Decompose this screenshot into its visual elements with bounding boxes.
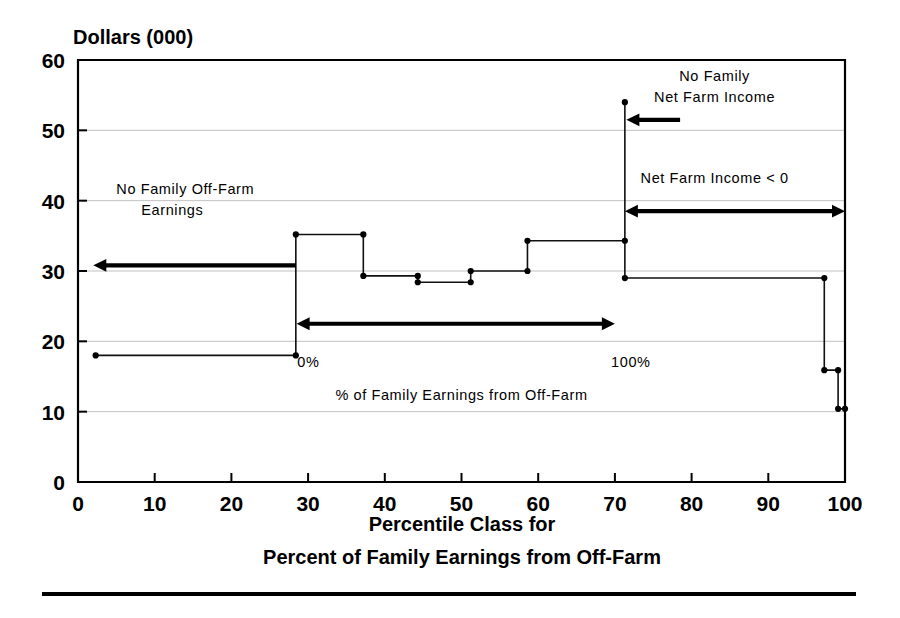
data-point: [360, 273, 366, 279]
x-tick-label-80: 80: [680, 492, 703, 515]
y-tick-label-30: 30: [42, 260, 65, 283]
y-tick-label-10: 10: [42, 401, 65, 424]
data-point-markers: [93, 99, 849, 412]
data-point: [821, 367, 827, 373]
arrow-no-family-off-farm-earnings: [93, 259, 295, 272]
x-axis-title-line-1: Percentile Class for: [369, 513, 556, 535]
x-tick-label-90: 90: [757, 492, 780, 515]
no-family-off-farm-earnings-label: No Family Off-Farm: [116, 181, 254, 197]
data-point: [842, 406, 848, 412]
data-point: [622, 238, 628, 244]
data-point: [468, 268, 474, 274]
x-tick-label-70: 70: [603, 492, 626, 515]
y-tick-label-0: 0: [53, 471, 65, 494]
data-point: [93, 352, 99, 358]
x-tick-label-100: 100: [827, 492, 862, 515]
data-point: [468, 279, 474, 285]
annotation-arrows: [93, 113, 845, 330]
x-tick-label-30: 30: [296, 492, 319, 515]
arrow-head-end: [832, 205, 845, 218]
x-axis-tick-labels: 0102030405060708090100: [72, 492, 862, 515]
x-axis-ticks: [155, 473, 769, 482]
no-family-net-farm-income-label-line-2: Net Farm Income: [654, 89, 775, 105]
x-axis-title-line-2: Percent of Family Earnings from Off-Farm: [263, 546, 661, 568]
y-axis-title: Dollars (000): [73, 26, 193, 48]
x-tick-label-50: 50: [450, 492, 473, 515]
pct-zero-label: 0%: [297, 354, 319, 370]
arrow-head-start: [297, 317, 310, 330]
y-axis-tick-labels: 0102030405060: [42, 49, 65, 494]
y-tick-label-50: 50: [42, 119, 65, 142]
data-point: [415, 279, 421, 285]
annotation-labels: No Family Off-FarmEarningsNo FamilyNet F…: [116, 68, 788, 403]
data-point: [835, 367, 841, 373]
chart-figure: 0102030405060 0102030405060708090100 No …: [0, 0, 900, 618]
y-axis-ticks: [78, 60, 87, 412]
y-tick-label-60: 60: [42, 49, 65, 72]
pct-hundred-label: 100%: [611, 354, 651, 370]
data-point: [622, 275, 628, 281]
data-point: [524, 268, 530, 274]
arrow-head-end: [93, 259, 106, 272]
pct-family-earnings-off-farm-label: % of Family Earnings from Off-Farm: [335, 387, 587, 403]
arrow-no-family-net-farm-income: [626, 113, 680, 126]
x-tick-label-0: 0: [72, 492, 84, 515]
x-tick-label-20: 20: [220, 492, 243, 515]
no-family-net-farm-income-label: No Family: [679, 68, 750, 84]
data-point: [415, 273, 421, 279]
net-farm-income-negative-label: Net Farm Income < 0: [641, 170, 789, 186]
x-tick-label-10: 10: [143, 492, 166, 515]
y-tick-label-20: 20: [42, 330, 65, 353]
data-point: [293, 231, 299, 237]
arrow-head-end: [626, 113, 639, 126]
step-chart: 0102030405060 0102030405060708090100 No …: [0, 0, 900, 618]
x-tick-label-60: 60: [527, 492, 550, 515]
data-point: [622, 99, 628, 105]
data-series: [96, 102, 845, 409]
arrow-head-start: [625, 205, 638, 218]
data-point: [821, 275, 827, 281]
data-point: [360, 231, 366, 237]
x-tick-label-40: 40: [373, 492, 396, 515]
y-tick-label-40: 40: [42, 190, 65, 213]
no-family-off-farm-earnings-label-line-2: Earnings: [141, 202, 203, 218]
data-point: [524, 238, 530, 244]
arrow-pct-range: [297, 317, 615, 330]
arrow-net-farm-income-negative: [625, 205, 845, 218]
arrow-head-end: [602, 317, 615, 330]
series-line-0: [96, 102, 845, 409]
data-point: [835, 406, 841, 412]
